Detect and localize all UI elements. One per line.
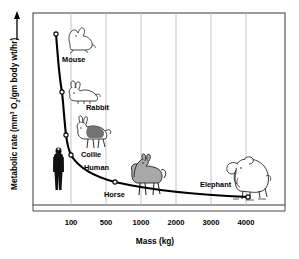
data-point-mouse [54,32,58,36]
y-axis-label-group: Metabolic rate (mm3 O2/gm body wt/hr) [9,11,21,190]
label-rabbit: Rabbit [86,103,110,112]
x-tick-100: 100 [65,218,78,227]
x-tick-4000: 4000 [238,218,255,227]
x-tick-3000: 3000 [203,218,220,227]
x-tick-1000: 1000 [133,218,150,227]
x-axis-title: Mass (kg) [136,236,175,246]
x-tick-2000: 2000 [168,218,185,227]
label-collie: Collie [81,150,101,159]
data-point-rabbit [60,90,64,94]
chart-svg: Metabolic rate (mm3 O2/gm body wt/hr) 10… [0,0,299,259]
data-point-horse [113,180,117,184]
data-point-human [69,153,73,157]
label-horse: Horse [104,190,125,199]
x-tick-500: 500 [100,218,113,227]
label-elephant: Elephant [200,180,232,189]
data-point-elephant [246,195,250,199]
metabolic-rate-figure: Metabolic rate (mm3 O2/gm body wt/hr) 10… [0,0,299,259]
data-point-collie [64,133,68,137]
label-mouse: Mouse [62,55,85,64]
